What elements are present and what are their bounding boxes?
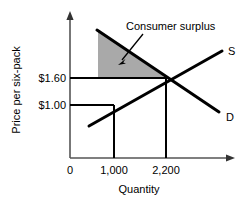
x-tick-label-1000: 1,000	[100, 164, 128, 176]
chart-canvas: $1.60 $1.00 0 1,000 2,200 Quantity Price…	[0, 0, 247, 202]
x-axis-ticks	[114, 152, 166, 158]
supply-curve-label: S	[228, 45, 235, 57]
y-axis	[66, 11, 73, 158]
y-tick-label-160: $1.60	[38, 72, 66, 84]
consumer-surplus-label: Consumer surplus	[126, 20, 216, 32]
x-tick-label-origin: 0	[67, 164, 73, 176]
consumer-surplus-chart: $1.60 $1.00 0 1,000 2,200 Quantity Price…	[0, 0, 247, 202]
demand-curve-label: D	[226, 111, 234, 123]
x-axis-title: Quantity	[119, 183, 160, 195]
x-tick-label-2200: 2,200	[152, 164, 180, 176]
y-tick-label-100: $1.00	[38, 99, 66, 111]
x-axis	[70, 154, 235, 161]
y-axis-title: Price per six-pack	[10, 46, 22, 134]
